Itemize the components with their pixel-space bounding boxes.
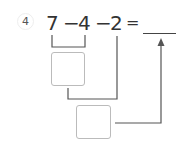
answer-box-1[interactable] bbox=[51, 52, 85, 86]
arrow-up-icon bbox=[158, 38, 165, 46]
answer-box-2[interactable] bbox=[76, 105, 111, 139]
